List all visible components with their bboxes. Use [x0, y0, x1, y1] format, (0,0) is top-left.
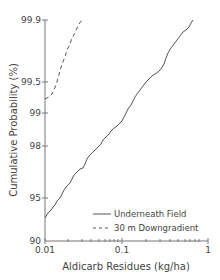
y-tick-99.5: 99.5: [21, 77, 41, 87]
x-tick-0.1: 0.1: [115, 245, 129, 255]
x-tick-0.01: 0.01: [35, 245, 55, 255]
x-axis-label: Aldicarb Residues (kg/ha): [62, 261, 190, 272]
y-tick-98: 98: [30, 141, 42, 151]
y-axis-label: Cumulative Probability (%): [8, 63, 19, 197]
x-tick-1: 1: [205, 245, 211, 255]
probability-chart: 99.9 99.5 99 98 95 90: [0, 0, 220, 280]
y-tick-95: 95: [30, 193, 41, 203]
legend: Underneath Field 30 m Downgradient: [93, 209, 199, 233]
series-30m-downgradient: [45, 20, 82, 99]
series-underneath-field: [45, 20, 193, 218]
y-tick-99.9: 99.9: [21, 15, 41, 25]
chart-svg: 99.9 99.5 99 98 95 90: [0, 0, 220, 280]
legend-label-underneath-field: Underneath Field: [114, 209, 186, 219]
legend-label-30m-downgradient: 30 m Downgradient: [114, 223, 199, 233]
y-tick-99: 99: [30, 108, 42, 118]
